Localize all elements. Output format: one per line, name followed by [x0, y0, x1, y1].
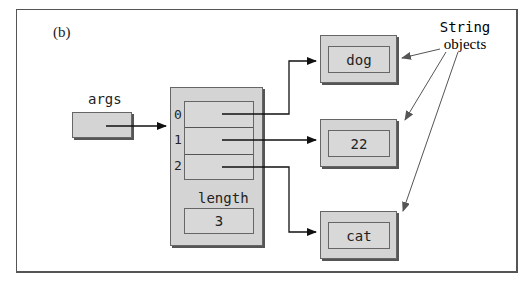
array-index-0: 0 — [174, 107, 182, 122]
panel-label: (b) — [53, 24, 71, 41]
annotation-line2: objects — [425, 36, 505, 53]
array-elements — [184, 101, 254, 180]
array-object: 3 — [170, 87, 263, 246]
annotation-line1: String — [425, 19, 505, 36]
string-object-22: 22 — [320, 119, 397, 167]
array-index-2: 2 — [174, 158, 182, 173]
array-divider — [185, 154, 253, 155]
string-value: 22 — [328, 130, 390, 157]
string-object-cat: cat — [320, 211, 397, 259]
string-value: dog — [328, 46, 390, 73]
string-objects-annotation: String objects — [425, 19, 505, 53]
args-reference-box — [72, 112, 132, 138]
array-index-1: 1 — [174, 132, 182, 147]
array-divider — [185, 127, 253, 128]
args-label: args — [88, 91, 122, 107]
length-value-box: 3 — [184, 208, 254, 234]
length-label: length — [198, 190, 249, 206]
string-object-dog: dog — [320, 35, 397, 83]
string-value: cat — [328, 222, 390, 249]
